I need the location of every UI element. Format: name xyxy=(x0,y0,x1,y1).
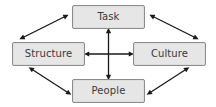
node-structure[interactable]: Structure xyxy=(12,42,85,66)
node-task[interactable]: Task xyxy=(72,5,145,29)
node-structure-label: Structure xyxy=(25,49,72,59)
node-task-label: Task xyxy=(98,12,120,22)
diagram-canvas: Task Structure Culture People xyxy=(0,0,216,107)
node-people[interactable]: People xyxy=(72,79,145,103)
connector-structure-task xyxy=(24,17,64,37)
node-people-label: People xyxy=(92,86,126,96)
node-culture-label: Culture xyxy=(151,49,188,59)
connector-structure-people xyxy=(33,70,67,92)
connector-people-culture xyxy=(151,70,185,92)
connector-task-culture xyxy=(154,17,194,37)
node-culture[interactable]: Culture xyxy=(133,42,206,66)
